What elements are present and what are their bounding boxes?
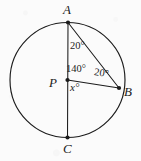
point-a-marker [66,20,70,24]
point-p-marker [65,78,69,82]
angle-label-bac: 20° [70,41,85,52]
segment-ab-chord [68,23,119,89]
point-c-marker [65,135,69,139]
point-label-a: A [63,3,71,16]
angle-label-abp: 20° [93,67,109,80]
point-label-b: B [124,85,132,98]
point-b-marker [117,86,121,90]
angle-label-apb: 140° [66,64,86,75]
angle-label-x: x° [70,82,79,93]
point-label-c: C [63,142,72,155]
point-label-p: P [49,76,57,89]
geometry-figure: A P B C 20° 140° 20° x° [0,0,141,161]
